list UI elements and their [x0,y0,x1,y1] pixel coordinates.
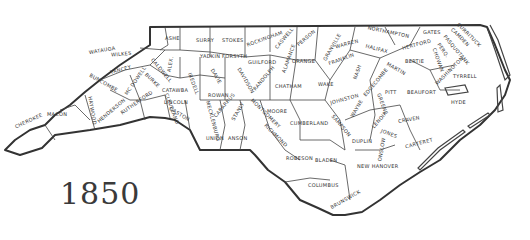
county-label-burke: BURKE [144,71,161,88]
county-label-columbus: COLUMBUS [308,182,339,188]
county-label-halifax: HALIFAX [365,43,389,55]
county-label-wake: WAKE [318,81,334,87]
county-label-moore: MOORE [267,108,287,114]
county-label-hyde: HYDE [451,99,466,105]
county-label-bladen: BLADEN [315,157,337,163]
county-label-sampson: SAMPSON [331,113,353,138]
county-label-orange: ORANGE [292,58,315,64]
county-label-franklin: FRANKLIN [328,51,355,66]
county-label-onslow: ONSLOW [376,137,386,162]
county-label-wilkes: WILKES [111,50,132,58]
county-label-alexander: ALEX. [166,56,175,73]
county-label-northampton: NORTHAMPTON [367,24,410,39]
county-label-person: PERSON [296,28,317,47]
county-label-tyrrell: TYRRELL [452,73,477,79]
county-label-hertford: HERTFORD [401,38,431,51]
county-label-yancey: YANCEY [109,63,133,75]
map-year-label: 1850 [60,176,140,211]
county-label-union: UNION [206,135,224,141]
county-label-beaufort: BEAUFORT [407,89,437,95]
county-label-guilford: GUILFORD [248,59,276,65]
county-label-forsyth: FORSYTH [222,53,247,59]
county-label-macon: MACON [47,111,67,117]
county-label-gates: GATES [423,29,441,35]
county-label-bertie: BERTIE [405,58,424,64]
county-label-robeson: ROBESON [286,155,313,161]
county-label-brunswick: BRUNSWICK [329,188,361,210]
county-label-cumberland: CUMBERLAND [290,120,328,126]
county-label-yadkin: YADKIN [199,53,220,59]
county-label-new-hanover: NEW HANOVER [357,163,399,169]
county-label-surry: SURRY [196,37,215,43]
county-label-catawba: CATAWBA [162,87,189,93]
county-label-chatham: CHATHAM [275,83,302,89]
county-label-pitt: PITT [385,89,397,95]
county-label-stanly: STANLY [230,101,246,122]
county-label-craven: CRAVEN [398,114,421,124]
county-label-martin: MARTIN [386,61,407,77]
county-label-ashe: ASHE [165,35,180,41]
county-label-randolph: RANDOLPH [252,65,276,92]
county-label-buncombe: BUNCOMBE [89,72,119,93]
county-label-davidson: DAVIDSON [236,66,256,94]
county-label-lenoir: LENOIR [371,110,389,130]
county-label-nash: NASH [352,64,363,80]
county-label-anson: ANSON [228,135,248,141]
county-label-carteret: CARTERET [405,136,435,149]
county-label-stokes: STOKES [222,37,244,43]
county-label-duplin: DUPLIN [352,138,372,144]
